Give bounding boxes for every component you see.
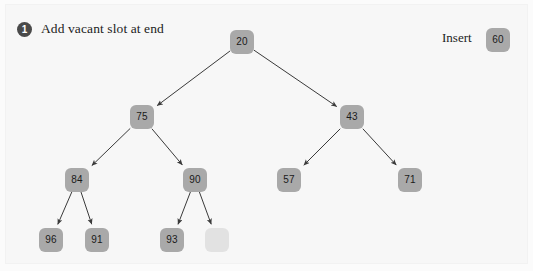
tree-node-71[interactable]: 71 xyxy=(398,168,422,192)
tree-edge-n84-to-n91 xyxy=(81,192,92,224)
insert-value-node[interactable]: 60 xyxy=(486,28,510,52)
edge-group xyxy=(58,50,396,224)
tree-edge-n20-to-n75 xyxy=(157,51,230,106)
tree-node-20[interactable]: 20 xyxy=(230,30,254,54)
tree-edge-n75-to-n90 xyxy=(152,129,182,165)
tree-node-91[interactable]: 91 xyxy=(85,228,109,252)
tree-edge-n90-to-n93 xyxy=(178,192,190,225)
tree-edge-n90-to-nvac xyxy=(199,192,211,224)
step-caption: Add vacant slot at end xyxy=(41,21,164,37)
tree-node-vacant[interactable] xyxy=(205,228,229,252)
tree-node-57[interactable]: 57 xyxy=(277,168,301,192)
tree-edge-n75-to-n84 xyxy=(92,128,130,165)
figure-canvas: 1 Add vacant slot at end Insert 20754384… xyxy=(0,0,533,271)
step-number-badge: 1 xyxy=(17,22,32,37)
tree-node-96[interactable]: 96 xyxy=(39,228,63,252)
tree-edge-n84-to-n96 xyxy=(58,192,72,225)
tree-node-90[interactable]: 90 xyxy=(183,168,207,192)
tree-node-43[interactable]: 43 xyxy=(340,105,364,129)
insert-label: Insert xyxy=(442,30,472,46)
tree-edge-n43-to-n71 xyxy=(363,129,396,165)
tree-edge-n43-to-n57 xyxy=(304,129,340,165)
tree-node-75[interactable]: 75 xyxy=(130,105,154,129)
tree-edge-n20-to-n43 xyxy=(254,50,337,107)
tree-node-84[interactable]: 84 xyxy=(65,168,89,192)
tree-node-93[interactable]: 93 xyxy=(160,228,184,252)
